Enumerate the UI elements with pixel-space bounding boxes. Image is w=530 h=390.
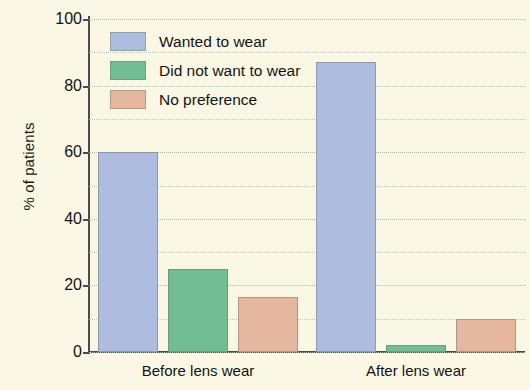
legend-item: Did not want to wear	[110, 56, 360, 85]
legend: Wanted to wearDid not want to wearNo pre…	[110, 27, 360, 114]
x-axis-tick-label: Before lens wear	[89, 362, 307, 379]
y-axis-tick-label: 0	[34, 343, 82, 361]
x-axis-tick-label: After lens wear	[307, 362, 525, 379]
y-axis-tick-mark	[83, 19, 89, 21]
y-axis-tick-mark	[83, 285, 89, 287]
legend-label: Did not want to wear	[159, 62, 300, 80]
legend-item: No preference	[110, 85, 360, 114]
gridline	[89, 352, 525, 353]
legend-color-swatch	[110, 32, 146, 51]
bar	[386, 345, 446, 352]
legend-item: Wanted to wear	[110, 27, 360, 56]
y-axis-tick-mark	[83, 86, 89, 88]
legend-label: Wanted to wear	[159, 33, 267, 51]
legend-color-swatch	[110, 61, 146, 80]
legend-label: No preference	[159, 91, 257, 109]
y-axis-tick-label: 100	[34, 10, 82, 28]
bar	[238, 297, 298, 352]
bar	[168, 269, 228, 352]
y-axis-tick-mark	[83, 352, 89, 354]
y-axis-tick-labels: 020406080100	[30, 0, 82, 390]
y-axis-tick-label: 80	[34, 77, 82, 95]
y-axis-tick-label: 60	[34, 143, 82, 161]
legend-color-swatch	[110, 90, 146, 109]
y-axis-tick-mark	[83, 219, 89, 221]
bar	[456, 319, 516, 352]
y-axis-tick-mark	[83, 152, 89, 154]
bar-chart-figure: % of patients 020406080100 Before lens w…	[0, 0, 530, 390]
bar	[98, 152, 158, 352]
y-axis-tick-label: 20	[34, 276, 82, 294]
y-axis-tick-label: 40	[34, 210, 82, 228]
